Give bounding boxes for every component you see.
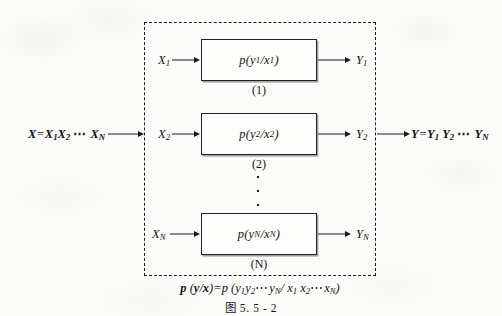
channel-1-transition-label: p(y1/x1)	[202, 40, 316, 80]
aggregate-output-arrow-head	[404, 131, 410, 137]
channel-2-output-arrow-head	[345, 131, 351, 137]
channel-n-transition-label: p(yN/xN)	[202, 214, 316, 254]
channel-n-input-arrow-head	[194, 231, 200, 237]
channel-2-output-label: Y2	[356, 127, 367, 142]
channel-1-output-arrow-head	[345, 57, 351, 63]
channel-n-output-arrow-line	[318, 234, 346, 235]
channel-2-input-arrow-line	[172, 134, 195, 135]
channel-2-box: p(y2/x2)	[201, 113, 317, 155]
channel-1-output-label: Y1	[356, 53, 367, 68]
channel-1-output-arrow-line	[318, 60, 346, 61]
channel-1-input-arrow-head	[194, 57, 200, 63]
channel-n-output-arrow-head	[345, 231, 351, 237]
aggregate-output-label: Y=Y1 Y2 ⋯ YN	[411, 126, 488, 142]
channel-2-input-arrow-head	[194, 131, 200, 137]
channel-n-output-label: YN	[356, 227, 369, 242]
channel-1-box: p(y1/x1)	[201, 39, 317, 81]
channel-1-input-arrow-line	[172, 60, 195, 61]
aggregate-input-arrow-line	[108, 134, 139, 135]
channel-n-input-arrow-line	[170, 234, 195, 235]
channel-2-index-label: (2)	[201, 157, 317, 172]
figure-caption: 图 5. 5 - 2	[0, 299, 502, 315]
aggregate-input-label: X=X1X2 ⋯ XN	[28, 126, 105, 142]
figure-canvas: X=X1X2 ⋯ XN X1 p(y1/x1) (1) Y1 X2 p(y2/x…	[0, 0, 502, 316]
joint-transition-formula: p (y/x)=p (y1y2⋯yN/ x1 x2⋯xN)	[144, 280, 376, 296]
channel-n-index-label: (N)	[201, 257, 317, 272]
vertical-ellipsis-icon	[253, 176, 263, 206]
channel-1-index-label: (1)	[201, 83, 317, 98]
aggregate-output-arrow-line	[377, 134, 405, 135]
channel-n-box: p(yN/xN)	[201, 213, 317, 255]
channel-2-transition-label: p(y2/x2)	[202, 114, 316, 154]
channel-2-output-arrow-line	[318, 134, 346, 135]
